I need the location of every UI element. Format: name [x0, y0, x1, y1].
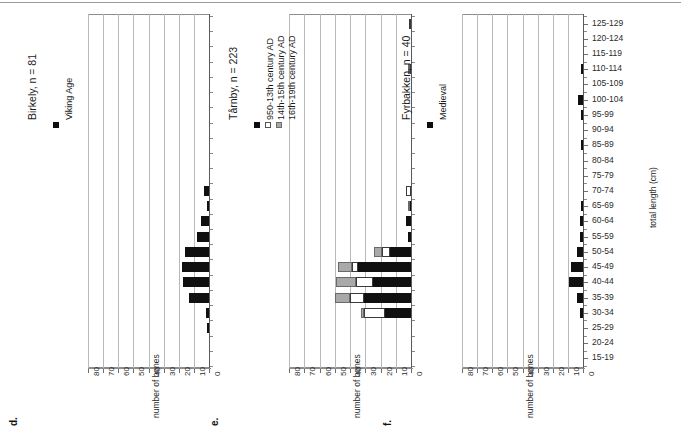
category-label: 40-44 — [592, 276, 614, 286]
bar-segment — [581, 110, 583, 120]
category-label: 85-89 — [592, 139, 614, 149]
category-axis-tick — [584, 298, 588, 299]
category-tick — [584, 229, 587, 230]
category-axis-tick — [584, 161, 588, 162]
category-tick — [584, 244, 587, 245]
category-tick — [584, 168, 587, 169]
value-tick-label: 20 — [557, 367, 566, 376]
category-label: 35-39 — [592, 292, 614, 302]
value-tick-label: 10 — [572, 367, 581, 376]
bar-segment — [581, 64, 583, 74]
category-tick — [584, 107, 587, 108]
figure-canvas: 80706050403020100number of bonesd.Birkel… — [0, 0, 681, 439]
category-label: 30-34 — [592, 307, 614, 317]
legend-swatch-black — [427, 122, 433, 128]
gridline-60 — [492, 14, 493, 368]
bar-segment — [577, 247, 583, 257]
value-tick-label: 30 — [542, 367, 551, 376]
category-axis-tick — [584, 24, 588, 25]
category-axis-tick — [584, 221, 588, 222]
category-tick — [584, 366, 587, 367]
category-axis-tick — [584, 115, 588, 116]
category-axis-tick — [584, 191, 588, 192]
value-tick — [492, 369, 493, 373]
category-tick — [584, 123, 587, 124]
category-label: 110-114 — [592, 63, 622, 73]
bar-segment — [580, 308, 583, 318]
category-tick — [584, 336, 587, 337]
gridline-50 — [507, 14, 508, 368]
value-tick-label: 60 — [496, 367, 505, 376]
bar-segment — [581, 201, 583, 211]
value-tick-label: 80 — [466, 367, 475, 376]
gridline-30 — [538, 14, 539, 368]
gridline-20 — [553, 14, 554, 368]
category-tick — [584, 305, 587, 306]
category-tick — [584, 92, 587, 93]
category-tick — [584, 62, 587, 63]
value-tick-label: 50 — [511, 367, 520, 376]
category-tick — [584, 320, 587, 321]
category-axis-tick — [584, 69, 588, 70]
category-axis-tick — [584, 84, 588, 85]
category-tick — [584, 77, 587, 78]
category-tick — [584, 259, 587, 260]
category-axis-tick — [584, 313, 588, 314]
category-axis-tick — [584, 100, 588, 101]
bar-segment — [581, 140, 583, 150]
value-tick — [568, 369, 569, 373]
category-label: 70-74 — [592, 185, 614, 195]
panel-letter: f. — [382, 420, 393, 426]
value-tick-label: 70 — [481, 367, 490, 376]
category-axis-tick — [584, 237, 588, 238]
category-axis-tick — [584, 39, 588, 40]
gridline-40 — [523, 14, 524, 368]
category-label: 20-24 — [592, 337, 614, 347]
category-axis-tick — [584, 130, 588, 131]
category-tick — [584, 183, 587, 184]
value-tick — [507, 369, 508, 373]
category-label: 95-99 — [592, 109, 614, 119]
category-tick — [584, 46, 587, 47]
category-tick — [584, 275, 587, 276]
category-label: 115-119 — [592, 48, 622, 58]
category-label: 100-104 — [592, 94, 623, 104]
bar-segment — [580, 232, 583, 242]
value-tick — [538, 369, 539, 373]
category-axis-tick — [584, 343, 588, 344]
category-axis-tick — [584, 145, 588, 146]
gridline-10 — [568, 14, 569, 368]
bar-segment — [569, 277, 583, 287]
category-label: 90-94 — [592, 124, 614, 134]
value-tick — [477, 369, 478, 373]
bar-segment — [571, 262, 583, 272]
chart-panel-f: 80706050403020100number of bonesf.Fyrbak… — [0, 0, 681, 439]
value-tick — [583, 369, 584, 373]
category-axis-tick — [584, 358, 588, 359]
category-label: 45-49 — [592, 261, 614, 271]
category-axis-tick — [584, 54, 588, 55]
category-label: 50-54 — [592, 246, 614, 256]
category-axis-tick — [584, 252, 588, 253]
category-label: 65-69 — [592, 200, 614, 210]
category-axis-tick — [584, 206, 588, 207]
category-tick — [584, 138, 587, 139]
category-axis-tick — [584, 282, 588, 283]
category-tick — [584, 290, 587, 291]
bar-segment — [578, 95, 583, 105]
gridline-70 — [477, 14, 478, 368]
panel-title: Fyrbakken, n = 40 — [400, 36, 412, 120]
category-label: 125-129 — [592, 18, 623, 28]
value-tick — [523, 369, 524, 373]
category-label: 120-124 — [592, 33, 623, 43]
value-axis-title: number of bones — [525, 354, 535, 418]
category-tick — [584, 153, 587, 154]
category-tick — [584, 351, 587, 352]
value-tick-label: 0 — [587, 372, 596, 376]
bar-segment — [577, 293, 583, 303]
category-label: 15-19 — [592, 352, 614, 362]
category-axis-tick — [584, 328, 588, 329]
category-label: 60-64 — [592, 215, 614, 225]
gridline-80 — [462, 14, 463, 368]
category-axis-title: total length (cm) — [648, 167, 658, 228]
